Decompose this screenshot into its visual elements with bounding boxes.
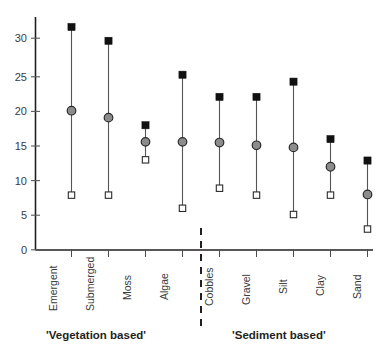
y-tick-label-30: 30	[15, 32, 27, 44]
max-marker-clay	[327, 135, 334, 142]
x-axis-ticks	[72, 250, 368, 257]
range-plot: 30 25 20 15 10 5 0 Emergent Submerg	[0, 0, 383, 354]
min-marker-algae	[179, 205, 185, 211]
category-label-gravel: Gravel	[240, 274, 252, 305]
category-label-clay: Clay	[314, 274, 326, 296]
x-axis-category-labels: Emergent Submerged Moss Algae Cobbles Gr…	[47, 257, 363, 311]
data-series-group	[67, 23, 372, 232]
max-marker-sand	[364, 157, 371, 164]
median-marker-algae	[178, 138, 187, 147]
y-tick-label-5: 5	[21, 209, 27, 221]
category-label-cobbles: Cobbles	[203, 267, 215, 306]
max-marker-gravel	[253, 93, 260, 100]
y-tick-label-15: 15	[15, 140, 27, 152]
y-tick-label-10: 10	[15, 175, 27, 187]
max-marker-cobbles	[216, 93, 223, 100]
y-axis-tick-labels: 30 25 20 15 10 5 0	[15, 32, 27, 256]
min-marker-submerged	[105, 192, 111, 198]
group-label-vegetation: 'Vegetation based'	[46, 329, 146, 341]
min-marker-silt	[290, 211, 296, 217]
category-label-silt: Silt	[277, 279, 289, 294]
max-marker-algae	[179, 71, 186, 78]
median-marker-clay	[326, 162, 335, 171]
y-tick-label-20: 20	[15, 105, 27, 117]
category-label-sand: Sand	[351, 274, 363, 299]
median-marker-submerged	[104, 113, 113, 122]
median-marker-moss	[141, 138, 150, 147]
max-marker-emergent	[68, 23, 75, 30]
min-marker-gravel	[253, 192, 259, 198]
min-marker-clay	[327, 192, 333, 198]
max-marker-silt	[290, 78, 297, 85]
median-marker-emergent	[67, 106, 76, 115]
median-marker-gravel	[252, 141, 261, 150]
category-label-emergent: Emergent	[47, 265, 59, 311]
chart-figure: 30 25 20 15 10 5 0 Emergent Submerg	[0, 0, 383, 354]
category-label-moss: Moss	[121, 275, 133, 300]
category-label-algae: Algae	[158, 273, 170, 300]
min-marker-cobbles	[216, 185, 222, 191]
max-marker-submerged	[105, 37, 112, 44]
max-marker-moss	[142, 122, 149, 129]
group-label-sediment: 'Sediment based'	[232, 329, 326, 341]
min-marker-sand	[364, 226, 370, 232]
y-tick-label-0: 0	[21, 244, 27, 256]
y-tick-label-25: 25	[15, 71, 27, 83]
median-marker-silt	[289, 143, 298, 152]
min-marker-moss	[142, 157, 148, 163]
category-label-submerged: Submerged	[84, 257, 96, 311]
min-marker-emergent	[68, 192, 74, 198]
median-marker-sand	[363, 190, 372, 199]
median-marker-cobbles	[215, 138, 224, 147]
